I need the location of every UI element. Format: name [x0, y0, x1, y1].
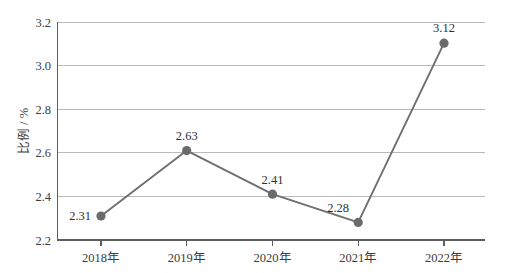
data-point-2022 [439, 39, 448, 48]
line-chart: 3.2 3.0 2.8 2.6 2.4 2.2 2018年 2019年 2020… [0, 0, 506, 273]
y-tick-label-2.8: 2.8 [35, 103, 51, 117]
x-tick-label-2018: 2018年 [82, 251, 120, 265]
chart-canvas: 3.2 3.0 2.8 2.6 2.4 2.2 2018年 2019年 2020… [0, 0, 506, 273]
x-tick-label-2020: 2020年 [254, 251, 292, 265]
y-axis-title: 比例 / % [17, 108, 31, 154]
data-point-2020 [268, 190, 277, 199]
y-tick-label-3.0: 3.0 [35, 59, 51, 73]
y-tick-label-2.6: 2.6 [35, 146, 51, 160]
x-tick-label-2019: 2019年 [168, 251, 206, 265]
data-point-2018 [96, 211, 105, 220]
data-label-2018: 2.31 [69, 209, 91, 223]
x-tick-label-2021: 2021年 [339, 251, 377, 265]
data-point-2019 [182, 146, 191, 155]
y-tick-label-3.2: 3.2 [35, 16, 51, 30]
data-point-2021 [354, 218, 363, 227]
x-tick-label-2022: 2022年 [425, 251, 463, 265]
data-label-2020: 2.41 [262, 173, 284, 187]
data-label-2019: 2.63 [176, 129, 198, 143]
y-tick-label-2.4: 2.4 [35, 190, 51, 204]
data-label-2022: 3.12 [433, 21, 455, 35]
y-tick-label-2.2: 2.2 [35, 234, 51, 248]
data-label-2021: 2.28 [327, 201, 349, 215]
chart-background [0, 0, 506, 273]
